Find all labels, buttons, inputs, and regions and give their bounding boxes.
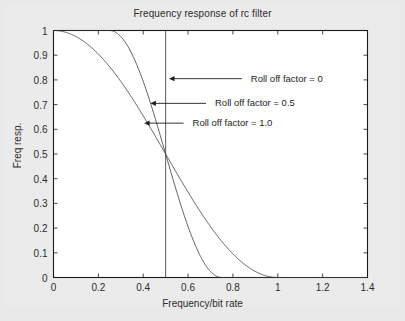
y-tick-label: 1 (12, 25, 48, 36)
x-tick-label: 0.2 (91, 282, 105, 293)
x-tick-label: 0.8 (226, 282, 240, 293)
x-tick-label: 0.6 (181, 282, 195, 293)
y-tick-label: 0.8 (12, 74, 48, 85)
plot-area (0, 0, 405, 321)
y-tick-label: 0.4 (12, 173, 48, 184)
plot-background (54, 31, 368, 278)
x-tick-label: 1.2 (316, 282, 330, 293)
y-tick-label: 0.5 (12, 149, 48, 160)
annotation-label: Roll off factor = 1.0 (193, 117, 273, 128)
annotation-label: Roll off factor = 0 (251, 73, 323, 84)
y-tick-label: 0.1 (12, 247, 48, 258)
x-tick-label: 1 (275, 282, 281, 293)
x-tick-label: 0 (51, 282, 57, 293)
y-tick-label: 0.9 (12, 50, 48, 61)
y-tick-label: 0.2 (12, 223, 48, 234)
annotation-label: Roll off factor = 0.5 (215, 97, 295, 108)
y-tick-label: 0.6 (12, 124, 48, 135)
y-tick-label: 0.7 (12, 99, 48, 110)
figure-canvas: Frequency response of rc filter Frequenc… (0, 0, 405, 321)
y-tick-label: 0 (12, 272, 48, 283)
x-tick-label: 1.4 (361, 282, 375, 293)
x-tick-label: 0.4 (136, 282, 150, 293)
y-tick-label: 0.3 (12, 198, 48, 209)
